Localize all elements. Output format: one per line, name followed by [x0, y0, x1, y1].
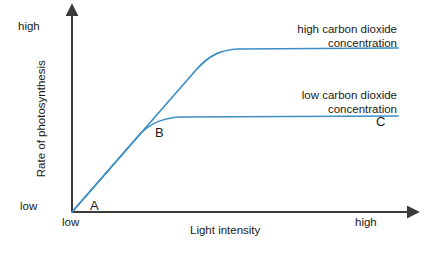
point-label-c: C: [376, 114, 385, 129]
series-label-low-co2-line1: low carbon dioxide: [302, 88, 397, 102]
point-label-a: A: [90, 198, 99, 213]
series-label-high-co2: high carbon dioxide concentration: [297, 22, 397, 50]
series-label-high-co2-line1: high carbon dioxide: [297, 22, 397, 36]
x-axis-title: Light intensity: [190, 224, 260, 238]
photosynthesis-light-intensity-chart: high low Rate of photosynthesis low high…: [0, 0, 430, 258]
point-label-b: B: [155, 125, 164, 140]
y-axis-max-label: high: [18, 20, 40, 34]
series-label-low-co2: low carbon dioxide concentration: [302, 88, 397, 116]
series-label-high-co2-line2: concentration: [297, 36, 397, 50]
x-axis-max-label: high: [355, 216, 377, 230]
y-axis-title: Rate of photosynthesis: [35, 39, 49, 199]
series-curve-low-co2: [72, 116, 398, 212]
x-axis-min-label: low: [62, 216, 79, 230]
series-curve-high-co2: [72, 48, 398, 212]
y-axis-min-label: low: [20, 200, 37, 214]
